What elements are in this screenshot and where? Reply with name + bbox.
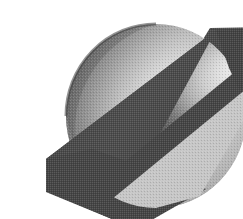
planet-band-logo: Grayscale shaded sphere crossed by a dar… <box>40 16 243 219</box>
logo-canvas <box>40 16 243 219</box>
